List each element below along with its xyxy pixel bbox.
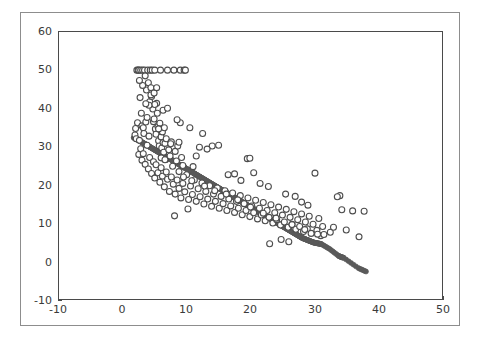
data-point <box>339 207 345 213</box>
data-point <box>154 85 160 91</box>
data-point <box>180 180 186 186</box>
data-point <box>232 171 238 177</box>
ytick-label-50: 50 <box>16 63 52 76</box>
xtick-label-10: 10 <box>166 303 206 316</box>
data-point <box>281 219 287 225</box>
data-point <box>156 126 162 132</box>
data-point <box>138 110 144 116</box>
data-point <box>172 191 178 197</box>
data-point <box>202 183 208 189</box>
data-point <box>163 169 169 175</box>
data-point <box>196 144 202 150</box>
data-point <box>364 269 369 274</box>
data-point <box>152 101 158 107</box>
data-point <box>235 205 241 211</box>
data-point <box>257 180 263 186</box>
data-point <box>251 170 257 176</box>
data-point <box>176 139 182 145</box>
data-point <box>143 101 149 107</box>
data-point <box>133 126 139 132</box>
data-point <box>253 197 259 203</box>
ytick-label-10: 10 <box>16 217 52 230</box>
data-point <box>321 232 327 238</box>
data-point <box>276 204 282 210</box>
xtick-label-20: 20 <box>230 303 270 316</box>
data-point <box>283 206 289 212</box>
data-point <box>168 174 174 180</box>
data-point <box>144 142 150 148</box>
data-point <box>287 214 293 220</box>
data-point <box>283 191 289 197</box>
series-actual-markers <box>132 67 367 247</box>
data-point <box>266 214 272 220</box>
data-point <box>136 77 142 83</box>
xtick-label-40: 40 <box>359 303 399 316</box>
data-point <box>267 241 273 247</box>
data-point <box>334 194 340 200</box>
data-point <box>268 202 274 208</box>
data-point <box>295 217 301 223</box>
data-point <box>299 211 305 217</box>
data-point <box>212 188 218 194</box>
ytick-label-20: 20 <box>16 179 52 192</box>
data-point <box>180 163 186 169</box>
data-point <box>205 196 211 202</box>
data-point <box>170 163 176 169</box>
data-point <box>154 110 160 116</box>
data-point <box>361 208 367 214</box>
data-point <box>195 186 201 192</box>
data-point <box>162 157 168 163</box>
plot-axes <box>58 31 443 300</box>
data-point <box>197 194 203 200</box>
data-point <box>161 125 167 131</box>
xtick-label--10: -10 <box>38 303 78 316</box>
data-point <box>238 177 244 183</box>
data-point <box>189 192 195 198</box>
data-point <box>251 210 257 216</box>
data-point <box>315 231 321 237</box>
data-point <box>182 67 188 73</box>
data-point <box>223 191 229 197</box>
data-point <box>161 184 167 190</box>
data-point <box>241 201 247 207</box>
data-point <box>260 210 266 216</box>
data-point <box>220 201 226 207</box>
data-point <box>230 190 236 196</box>
data-point <box>182 189 188 195</box>
xtick-label-0: 0 <box>102 303 142 316</box>
data-point <box>144 114 150 120</box>
data-point <box>185 206 191 212</box>
data-point <box>136 137 142 143</box>
xtick-label-50: 50 <box>423 303 463 316</box>
data-point <box>292 193 298 199</box>
data-point <box>176 169 182 175</box>
xtick-mark-50 <box>443 296 444 300</box>
data-point <box>174 177 180 183</box>
xtick-label-30: 30 <box>295 303 335 316</box>
data-point <box>356 234 362 240</box>
data-point <box>166 147 172 153</box>
data-point <box>245 195 251 201</box>
data-point <box>216 142 222 148</box>
data-point <box>168 141 174 147</box>
data-point <box>225 172 231 178</box>
data-point <box>140 125 146 131</box>
ytick-label-40: 40 <box>16 102 52 115</box>
data-point <box>228 203 234 209</box>
data-point <box>291 209 297 215</box>
data-point <box>178 195 184 201</box>
data-point <box>172 213 178 219</box>
ytick-mark--10 <box>58 300 62 301</box>
data-point <box>305 202 311 208</box>
data-point <box>310 221 316 227</box>
data-point <box>174 117 180 123</box>
data-point <box>187 125 193 131</box>
data-point <box>180 174 186 180</box>
data-point <box>212 198 218 204</box>
data-point <box>137 95 143 101</box>
data-point <box>235 197 241 203</box>
scatter-plot-canvas <box>59 32 442 299</box>
data-point <box>260 200 266 206</box>
data-point <box>316 216 322 222</box>
data-point <box>265 184 271 190</box>
